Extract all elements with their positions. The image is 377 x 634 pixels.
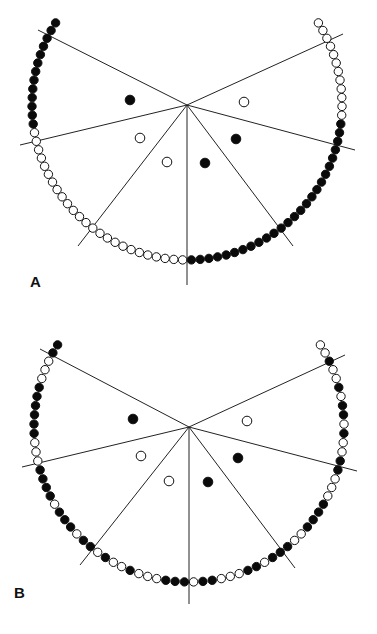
arc-dot-filled [32, 67, 40, 75]
arc-dot-filled [42, 483, 50, 491]
panel-b-fan [22, 341, 357, 604]
sector-dot-open [242, 416, 252, 426]
arc-dot-filled [28, 93, 36, 101]
arc-dot-filled [340, 429, 348, 437]
arc-dot-open [328, 483, 336, 491]
arc-dot-filled [268, 553, 276, 561]
arc-dot-filled [255, 238, 263, 246]
panel-a-label: A [30, 273, 41, 290]
arc-dot-filled [47, 26, 55, 34]
arc-dot-filled [334, 466, 342, 474]
arc-dot-open [135, 248, 143, 256]
arc-dot-filled [319, 500, 327, 508]
sector-boundary-line [187, 105, 355, 150]
arc-dot-open [117, 562, 125, 570]
sector-boundary-line [187, 105, 293, 246]
arc-dot-open [316, 341, 324, 349]
sector-dot-open [136, 451, 146, 461]
arc-dot-filled [208, 576, 216, 584]
arc-dot-filled [338, 401, 346, 409]
arc-dot-filled [29, 120, 37, 128]
arc-dot-open [103, 234, 111, 242]
arc-dot-open [338, 102, 346, 110]
arc-dot-filled [336, 457, 344, 465]
arc-dot-filled [308, 193, 316, 201]
arc-dot-open [144, 251, 152, 259]
arc-dot-filled [39, 475, 47, 483]
arc-dot-filled [180, 578, 188, 586]
arc-dot-filled [325, 162, 333, 170]
arc-dot-open [63, 200, 71, 208]
arc-dot-filled [55, 508, 63, 516]
sector-boundary-line [80, 427, 189, 565]
arc-dot-open [189, 578, 197, 586]
arc-dot-filled [328, 154, 336, 162]
arc-dot-filled [79, 536, 87, 544]
arc-dot-filled [39, 42, 47, 50]
arc-dot-open [153, 574, 161, 582]
arc-dot-open [119, 242, 127, 250]
arc-dot-open [144, 572, 152, 580]
sector-diagram [0, 0, 377, 634]
arc-dot-open [324, 492, 332, 500]
arc-dot-filled [66, 523, 74, 531]
arc-dot-open [290, 536, 298, 544]
arc-dot-open [226, 572, 234, 580]
arc-dot-filled [205, 254, 213, 262]
arc-dot-filled [49, 349, 57, 357]
arc-dot-filled [331, 146, 339, 154]
arc-dot-filled [101, 553, 109, 561]
arc-dot-filled [297, 206, 305, 214]
arc-dot-filled [187, 256, 195, 264]
arc-dot-open [50, 500, 58, 508]
arc-dot-filled [53, 341, 61, 349]
arc-dot-filled [335, 383, 343, 391]
arc-dot-open [297, 530, 305, 538]
arc-dot-filled [244, 566, 252, 574]
arc-dot-filled [337, 120, 345, 128]
sector-boundary-line [189, 427, 357, 471]
arc-dot-open [337, 392, 345, 400]
sector-dot-filled [231, 134, 241, 144]
arc-dot-filled [34, 59, 42, 67]
arc-dot-filled [252, 562, 260, 570]
arc-dot-filled [86, 542, 94, 550]
arc-dot-open [41, 366, 49, 374]
panel-b-label: B [14, 584, 25, 601]
arc-dot-filled [162, 576, 170, 584]
sector-dot-filled [125, 95, 135, 105]
arc-dot-open [337, 85, 345, 93]
arc-dot-open [338, 93, 346, 101]
arc-dot-filled [222, 251, 230, 259]
arc-dot-open [178, 256, 186, 264]
arc-dot-open [339, 439, 347, 447]
panel-a-fan [20, 19, 355, 285]
arc-dot-filled [196, 255, 204, 263]
arc-dot-open [40, 162, 48, 170]
arc-dot-open [235, 569, 243, 577]
sector-boundary-line [22, 427, 189, 467]
arc-dot-filled [213, 253, 221, 261]
arc-dot-open [34, 146, 42, 154]
arc-dot-filled [30, 429, 38, 437]
arc-dot-open [109, 558, 117, 566]
sector-boundary-line [189, 355, 345, 427]
sector-dot-filled [203, 477, 213, 487]
arc-dot-open [332, 374, 340, 382]
arc-dot-filled [43, 34, 51, 42]
arc-dot-filled [126, 566, 134, 574]
arc-dot-filled [171, 577, 179, 585]
arc-dot-open [48, 178, 56, 186]
sector-dot-open [135, 133, 145, 143]
sector-boundary-line [38, 30, 187, 105]
arc-dot-filled [230, 248, 238, 256]
arc-dot-filled [317, 178, 325, 186]
arc-dot-filled [321, 170, 329, 178]
arc-dot-filled [314, 508, 322, 516]
arc-dot-filled [35, 383, 43, 391]
arc-dot-open [338, 448, 346, 456]
arc-dot-filled [334, 137, 342, 145]
arc-dot-open [94, 548, 102, 556]
arc-dot-open [30, 129, 38, 137]
arc-dot-filled [335, 129, 343, 137]
